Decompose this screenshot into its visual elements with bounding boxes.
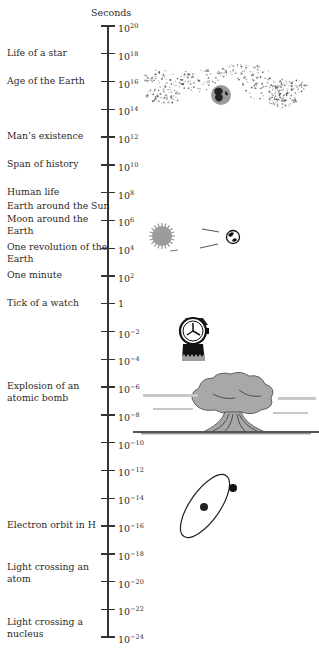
event-label: Tick of a watch [7,297,79,309]
event-label: Moon around theEarth [7,213,88,237]
axis-tick [101,192,115,193]
atomic-bomb-illustration [133,372,319,438]
tick-label: 1014 [118,104,138,117]
tick-label: 1016 [118,77,138,90]
axis-tick [101,81,115,82]
tick-label: 10−20 [118,577,144,590]
event-label: Age of the Earth [7,75,85,87]
event-label: Light crossing anatom [7,561,89,585]
tick-label: 10−10 [118,438,144,451]
tick-label: 1018 [118,49,138,62]
tick-label: 10−16 [118,521,144,534]
axis-tick [101,470,115,471]
tick-label: 1 [118,299,124,309]
tick-label: 104 [118,243,134,256]
tick-label: 10−18 [118,549,144,562]
axis-tick [101,498,115,499]
axis-tick [101,359,115,360]
axis-tick [101,609,115,610]
event-label: Explosion of anatomic bomb [7,380,79,404]
event-label: Life of a star [7,47,67,59]
event-label: Earth around the Sun [7,200,109,212]
axis-tick [101,581,115,582]
axis-tick [101,525,115,526]
event-label: Span of history [7,158,79,170]
tick-label: 10−14 [118,493,144,506]
axis-tick [101,442,115,443]
tick-label: 10−2 [118,327,140,340]
tick-label: 1020 [118,21,138,34]
axis-tick [101,553,115,554]
tick-label: 10−12 [118,465,144,478]
axis-tick [101,220,115,221]
axis-tick [101,53,115,54]
axis-title: Seconds [91,7,131,18]
axis-tick [101,136,115,137]
event-label: One revolution of theEarth [7,241,107,265]
event-label: Man’s existence [7,130,83,142]
tick-label: 10−24 [118,632,144,645]
tick-label: 10−22 [118,604,144,617]
event-label: Electron orbit in H [7,519,96,531]
sun-earth-illustration [148,218,268,258]
wristwatch-illustration [176,313,216,365]
axis-tick [101,109,115,110]
axis-tick [101,303,115,304]
axis-tick [101,25,115,26]
tick-label: 1012 [118,132,138,145]
event-label: Light crossing anucleus [7,616,83,640]
tick-label: 1010 [118,160,138,173]
tick-label: 102 [118,271,134,284]
axis-tick [101,275,115,276]
tick-label: 106 [118,215,134,228]
event-label: Human life [7,186,59,198]
axis-tick [101,331,115,332]
tick-label: 10−4 [118,354,140,367]
hydrogen-atom-illustration [172,472,242,542]
axis-tick [101,164,115,165]
axis-tick [101,636,115,637]
axis-tick [101,386,115,387]
event-label: One minute [7,269,62,281]
galaxy-illustration [143,58,313,116]
tick-label: 108 [118,188,134,201]
axis-tick [101,414,115,415]
